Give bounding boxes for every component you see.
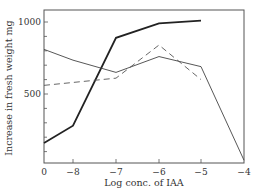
x-tick-label: −7: [109, 167, 123, 177]
x-tick-label: 0: [41, 167, 47, 177]
series-line-solid-thick: [44, 21, 201, 143]
series-line-solid-thin: [44, 49, 244, 160]
x-axis-ticks: 0−8−7−6−5−4: [41, 159, 251, 177]
plot-frame: [44, 10, 244, 163]
x-tick-label: −5: [194, 167, 208, 177]
series-line-dashed: [44, 45, 201, 85]
y-tick-label: 1000: [18, 17, 41, 27]
x-axis-label: Log conc. of IAA: [104, 177, 184, 188]
x-tick-label: −8: [66, 167, 80, 177]
y-tick-label: 500: [24, 89, 41, 99]
chart: 5001000 0−8−7−6−5−4 Log conc. of IAA Inc…: [0, 0, 260, 195]
y-axis-label: Increase in fresh weight mg: [3, 20, 14, 155]
x-tick-label: −6: [152, 167, 166, 177]
x-tick-label: −4: [237, 167, 251, 177]
series-lines: [44, 21, 244, 161]
